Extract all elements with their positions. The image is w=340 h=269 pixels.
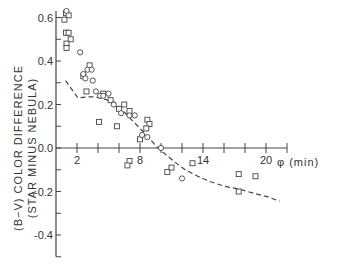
circle-marker xyxy=(83,76,88,81)
circle-marker xyxy=(179,176,184,181)
x-tick-label: 2 xyxy=(74,154,80,166)
y-axis-title: (B−V) COLOR DIFFERENCE xyxy=(12,65,24,231)
square-marker xyxy=(253,174,258,179)
square-marker xyxy=(169,165,174,170)
chart: 0.60.40.20.0-0.2-0.4281420 φ (min) (B−V)… xyxy=(0,0,340,269)
square-marker xyxy=(64,45,69,50)
axes xyxy=(56,11,287,257)
x-tick-label: 8 xyxy=(137,154,143,166)
y-tick-label: 0.0 xyxy=(38,142,53,154)
circle-marker xyxy=(78,50,83,55)
circle-marker xyxy=(89,67,94,72)
circle-marker xyxy=(158,145,163,150)
y-tick-label: 0.2 xyxy=(38,99,53,111)
circle-marker xyxy=(64,8,69,13)
circle-marker xyxy=(101,93,106,98)
circle-marker xyxy=(145,135,150,140)
circle-marker xyxy=(93,89,98,94)
y-axis-subtitle: (STAR MINUS NEBULA) xyxy=(26,78,38,218)
y-tick-label: -0.4 xyxy=(34,229,53,241)
circle-marker xyxy=(132,113,137,118)
x-tick-label: 14 xyxy=(197,154,209,166)
y-tick-label: 0.6 xyxy=(38,12,53,24)
y-axis-title-group: (B−V) COLOR DIFFERENCE xyxy=(12,65,24,231)
square-marker xyxy=(236,189,241,194)
tick-labels: 0.60.40.20.0-0.2-0.4281420 xyxy=(34,12,272,242)
square-marker xyxy=(144,126,149,131)
circle-marker xyxy=(111,102,116,107)
circle-marker xyxy=(140,132,145,137)
square-marker xyxy=(236,172,241,177)
circle-marker xyxy=(106,91,111,96)
data-markers xyxy=(62,8,258,194)
circle-marker xyxy=(119,111,124,116)
square-marker xyxy=(190,161,195,166)
y-tick-label: 0.4 xyxy=(38,55,53,67)
square-marker xyxy=(66,30,71,35)
square-marker xyxy=(122,102,127,107)
dashed-fit-line xyxy=(66,81,280,202)
circle-marker xyxy=(127,113,132,118)
square-marker xyxy=(62,17,67,22)
x-axis-title: φ (min) xyxy=(277,156,319,168)
circle-marker xyxy=(90,78,95,83)
square-marker xyxy=(114,124,119,129)
x-tick-label: 20 xyxy=(260,154,272,166)
square-marker xyxy=(97,119,102,124)
y-axis-subtitle-group: (STAR MINUS NEBULA) xyxy=(26,78,38,218)
square-marker xyxy=(125,163,130,168)
ticks xyxy=(56,18,287,257)
fit-curve xyxy=(66,81,280,202)
square-marker xyxy=(84,89,89,94)
